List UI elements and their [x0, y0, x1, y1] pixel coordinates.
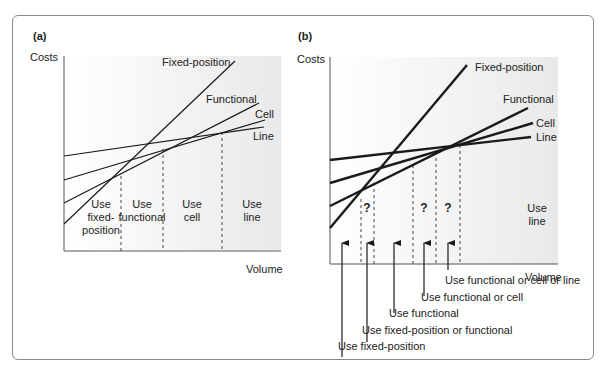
panel-a-line-label: Functional: [206, 93, 257, 105]
panel-a-region-label: Use: [91, 198, 111, 210]
panel-b-uncertain-marker: ?: [444, 201, 451, 215]
panel-b-uncertain-marker: ?: [420, 201, 427, 215]
panel-a-region-label: cell: [184, 211, 201, 223]
panel-a-region-label: position: [82, 224, 120, 236]
panel-a: (a) Costs Volume Fixed-position Function…: [30, 30, 283, 275]
panel-b-annotation: Use functional: [389, 307, 459, 319]
panel-b-line-label: Line: [536, 131, 557, 143]
panel-a-line-label: Cell: [255, 108, 274, 120]
panel-b-y-axis-label: Costs: [297, 53, 326, 65]
panel-a-region-label: functional: [118, 211, 165, 223]
panel-a-region-label: Use: [242, 198, 262, 210]
panel-b-plot-bg: [331, 57, 558, 264]
panel-b-line-label: Fixed-position: [475, 61, 543, 73]
panel-b-line-label: Functional: [503, 93, 554, 105]
panel-a-y-axis-label: Costs: [30, 51, 59, 63]
panel-b-label: (b): [298, 30, 312, 42]
panel-b-region-label: line: [528, 215, 545, 227]
panel-a-region-label: Use: [132, 198, 152, 210]
panel-a-line-label: Line: [253, 130, 274, 142]
panel-b-region-label: Use: [527, 202, 547, 214]
panel-b-uncertain-marker: ?: [363, 201, 370, 215]
panel-a-line-label: Fixed-position: [162, 56, 230, 68]
panel-a-label: (a): [33, 30, 47, 42]
panel-a-region-label: Use: [182, 198, 202, 210]
panel-a-region-label: line: [243, 211, 260, 223]
panel-b-annotation: Use functional or cell: [421, 291, 523, 303]
panel-a-region-label: fixed-: [88, 211, 115, 223]
panel-a-x-axis-label: Volume: [246, 263, 283, 275]
figure-canvas: (a) Costs Volume Fixed-position Function…: [0, 0, 606, 372]
panel-b: (b) Costs Volume Fixed-position Function…: [297, 30, 580, 357]
panel-b-annotation: Use functional or cell or line: [445, 274, 580, 286]
panel-b-line-label: Cell: [536, 117, 555, 129]
panel-b-annotation: Use fixed-position or functional: [362, 324, 512, 336]
panel-b-annotation: Use fixed-position: [338, 340, 425, 352]
